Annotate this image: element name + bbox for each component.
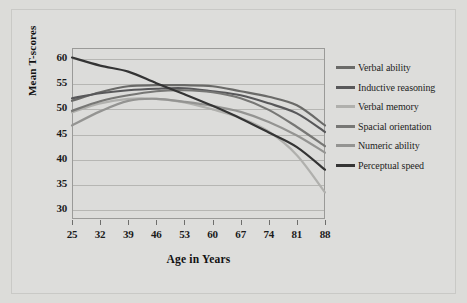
y-axis-tick-label: 30 (45, 202, 67, 214)
x-axis-tick-mark (297, 220, 298, 225)
legend-item-label: Inductive reasoning (358, 82, 435, 93)
y-axis-tick-label: 40 (45, 152, 67, 164)
x-axis-tick-mark (241, 220, 242, 225)
series-lines (72, 48, 325, 219)
x-axis-tick-label: 25 (59, 228, 85, 240)
y-axis-tick-label: 50 (45, 101, 67, 113)
legend-color-swatch (336, 164, 355, 167)
legend-item[interactable]: Verbal memory (336, 97, 461, 117)
x-axis-tick-label: 74 (256, 228, 282, 240)
series-line (72, 58, 325, 170)
x-axis-tick-mark (72, 220, 73, 225)
figure-container: 30354045505560 25323946536067748188 Mean… (0, 0, 467, 303)
legend-color-swatch (336, 86, 355, 89)
line-chart: 30354045505560 25323946536067748188 Mean… (0, 0, 467, 303)
legend-item-label: Numeric ability (358, 140, 420, 151)
y-axis-tick-label: 60 (45, 51, 67, 63)
y-axis-tick-label: 45 (45, 127, 67, 139)
x-axis-tick-label: 67 (228, 228, 254, 240)
series-line (72, 88, 325, 132)
y-axis-tick-label: 55 (45, 76, 67, 88)
x-axis-tick-label: 60 (200, 228, 226, 240)
legend-color-swatch (336, 125, 355, 128)
chart-legend: Verbal abilityInductive reasoningVerbal … (336, 58, 461, 175)
x-axis-tick-mark (156, 220, 157, 225)
series-line (72, 98, 325, 192)
x-axis-tick-mark (213, 220, 214, 225)
x-axis-tick-label: 81 (284, 228, 310, 240)
legend-item[interactable]: Perceptual speed (336, 156, 461, 176)
x-axis-tick-mark (269, 220, 270, 225)
x-axis-tick-mark (100, 220, 101, 225)
x-axis-tick-mark (325, 220, 326, 225)
x-axis-tick-label: 88 (312, 228, 338, 240)
legend-color-swatch (336, 105, 355, 108)
legend-item[interactable]: Verbal ability (336, 58, 461, 78)
legend-item[interactable]: Spacial orientation (336, 117, 461, 137)
x-axis-tick-label: 46 (143, 228, 169, 240)
legend-item[interactable]: Numeric ability (336, 136, 461, 156)
legend-color-swatch (336, 144, 355, 147)
legend-item-label: Perceptual speed (358, 160, 424, 171)
legend-item-label: Verbal memory (358, 101, 419, 112)
y-axis-title: Mean T-scores (26, 25, 38, 96)
x-axis-title: Age in Years (72, 253, 325, 265)
x-axis-tick-label: 32 (87, 228, 113, 240)
x-axis-tick-mark (128, 220, 129, 225)
y-axis-tick-label: 35 (45, 177, 67, 189)
legend-item-label: Spacial orientation (358, 121, 431, 132)
legend-item[interactable]: Inductive reasoning (336, 78, 461, 98)
x-axis-tick-label: 53 (171, 228, 197, 240)
x-axis-tick-label: 39 (115, 228, 141, 240)
x-axis-tick-mark (184, 220, 185, 225)
legend-color-swatch (336, 66, 355, 69)
legend-item-label: Verbal ability (358, 62, 411, 73)
series-line (72, 90, 325, 146)
